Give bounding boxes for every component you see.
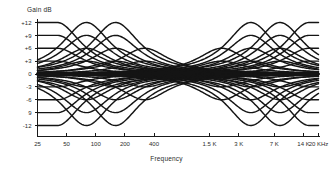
x-tick-label: 1.5 K: [203, 141, 217, 147]
x-tick-label: 3 K: [234, 141, 243, 147]
x-tick-labels: 25501002004001.5 K3 K7 K14 K20 KHz: [34, 141, 328, 147]
y-tick-label: 9: [28, 110, 32, 116]
x-tick-label: 20 KHz: [309, 141, 329, 147]
y-tick-label: +3: [25, 58, 33, 64]
equalizer-response-chart: Gain dB +12+9+6+30-3-69-12 2550100200400…: [0, 0, 333, 173]
x-tick-label: 200: [120, 141, 131, 147]
y-tick-label: +9: [25, 33, 33, 39]
x-tick-label: 7 K: [270, 141, 279, 147]
y-tick-label: -12: [23, 123, 32, 129]
plot-area: +12+9+6+30-3-69-12 25501002004001.5 K3 K…: [0, 0, 333, 173]
frequency-axis-title: Frequency: [0, 155, 333, 162]
x-tick-label: 50: [63, 141, 70, 147]
y-tick-label: 0: [28, 71, 32, 77]
y-tick-labels: +12+9+6+30-3-69-12: [21, 20, 32, 129]
x-tick-label: 25: [34, 141, 41, 147]
y-tick-label: -6: [26, 97, 32, 103]
y-tick-label: +6: [25, 45, 33, 51]
y-tick-label: -3: [26, 84, 32, 90]
y-tick-label: +12: [21, 20, 32, 26]
x-tick-label: 400: [149, 141, 160, 147]
x-tick-label: 100: [91, 141, 102, 147]
eq-curves-group: [38, 23, 319, 126]
